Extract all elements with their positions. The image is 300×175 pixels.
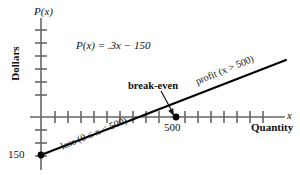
break-even-x-value: 500: [164, 122, 181, 133]
profit-function-chart: P(x) Dollars P(x) = .3x − 150 150 500 x …: [0, 0, 300, 175]
y-axis-label: Dollars: [10, 40, 21, 88]
y-intercept-value: 150: [8, 149, 25, 160]
equation-label: P(x) = .3x − 150: [76, 40, 150, 51]
x-axis-title: x: [287, 110, 292, 121]
y-intercept-dot: [38, 152, 45, 159]
break-even-dot: [173, 114, 180, 121]
x-axis-label: Quantity: [251, 122, 293, 133]
break-even-annotation: break-even: [128, 81, 178, 92]
y-axis-title: P(x): [34, 6, 53, 17]
